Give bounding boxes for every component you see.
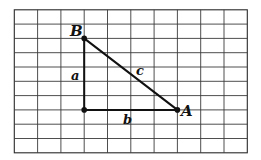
vertex-a-point — [175, 107, 181, 113]
grid-diagram: B A a b c — [0, 0, 261, 160]
side-a-label: a — [71, 68, 79, 83]
grid — [14, 10, 247, 153]
grid-lines — [14, 10, 247, 153]
vertex-right-angle-point — [81, 107, 87, 113]
vertex-a-label: A — [179, 102, 193, 120]
side-b-label: b — [123, 112, 132, 127]
vertex-b-label: B — [69, 22, 83, 40]
side-c-label: c — [136, 63, 144, 78]
